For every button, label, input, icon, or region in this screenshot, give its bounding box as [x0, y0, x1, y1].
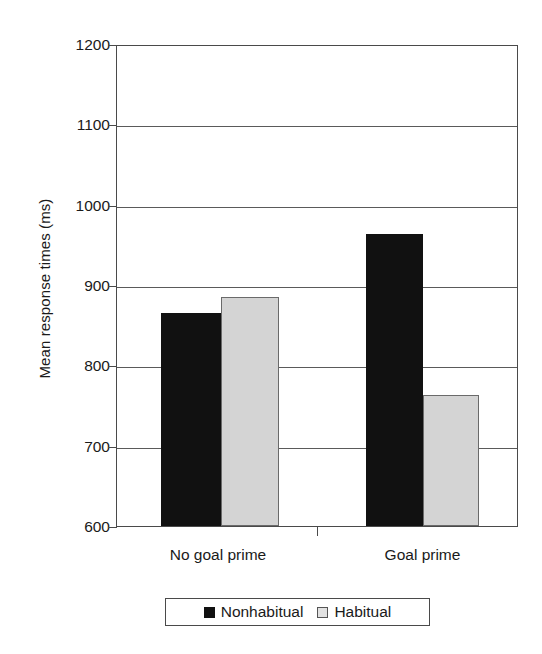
x-tick-mark-center [317, 527, 318, 536]
y-tick-label-700: 700 [52, 438, 110, 456]
bar-nonhabitual-goal-prime [366, 234, 423, 526]
legend-entry-nonhabitual: Nonhabitual [204, 603, 304, 621]
y-tick-label-800: 800 [52, 357, 110, 375]
bar-nonhabitual-no-goal-prime [161, 313, 221, 526]
legend-entry-habitual: Habitual [317, 603, 391, 621]
x-category-label-goal-prime: Goal prime [365, 546, 480, 564]
y-tick-label-1200: 1200 [52, 36, 110, 54]
y-tick-label-600: 600 [52, 518, 110, 536]
chart-legend: Nonhabitual Habitual [165, 598, 430, 626]
bar-chart-figure: Mean response times (ms) 1200 1100 1000 … [0, 0, 542, 654]
gridline-1100 [117, 126, 517, 127]
legend-label-habitual: Habitual [334, 603, 391, 621]
y-tick-label-900: 900 [52, 277, 110, 295]
gridline-1000 [117, 207, 517, 208]
y-tick-mark-600 [108, 527, 117, 528]
y-tick-label-1100: 1100 [52, 116, 110, 134]
bar-habitual-no-goal-prime [221, 297, 279, 526]
legend-label-nonhabitual: Nonhabitual [221, 603, 304, 621]
x-category-label-no-goal-prime: No goal prime [158, 546, 278, 564]
gridline-900 [117, 287, 517, 288]
plot-area [116, 45, 518, 527]
y-tick-label-1000: 1000 [52, 197, 110, 215]
y-axis-title: Mean response times (ms) [36, 149, 53, 429]
legend-swatch-nonhabitual-icon [204, 607, 215, 618]
legend-swatch-habitual-icon [317, 607, 328, 618]
bar-habitual-goal-prime [423, 395, 479, 526]
